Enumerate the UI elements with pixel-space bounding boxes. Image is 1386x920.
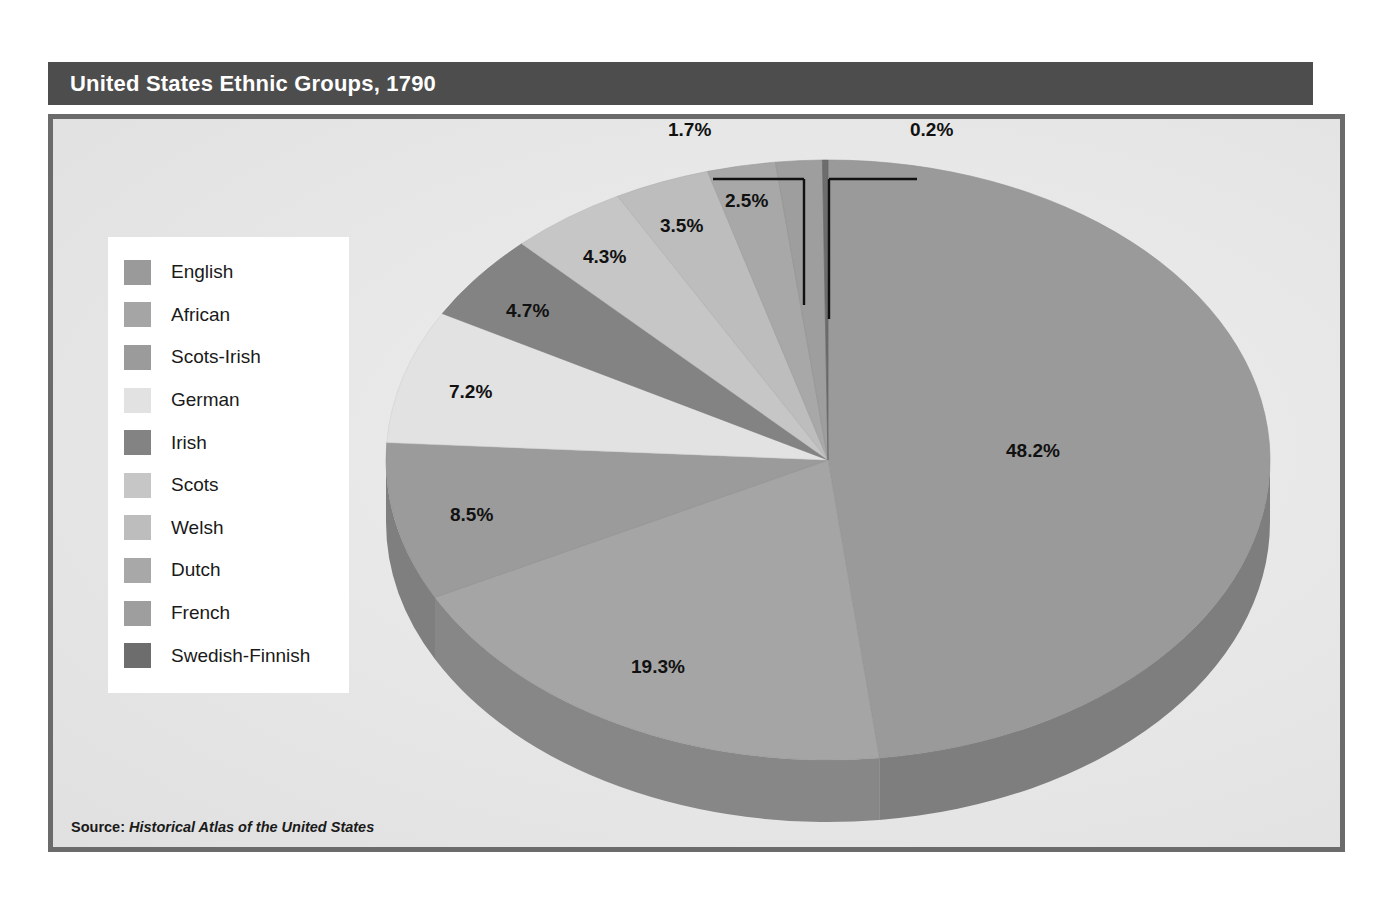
pct-label-scots: 4.3% [583, 246, 626, 268]
ethnic-groups-figure: United States Ethnic Groups, 1790 E [0, 0, 1386, 920]
pct-label-french: 1.7% [668, 119, 711, 141]
legend-item-german: German [108, 379, 349, 422]
legend-item-welsh: Welsh [108, 507, 349, 550]
pie-depth-african [435, 597, 879, 822]
pct-label-african: 19.3% [631, 656, 685, 678]
pct-label-dutch: 2.5% [725, 190, 768, 212]
pie-slice-african[interactable] [435, 460, 879, 760]
pct-label-welsh: 3.5% [660, 215, 703, 237]
legend-swatch-icon [124, 260, 151, 285]
pct-label-scots-irish: 8.5% [450, 504, 493, 526]
legend-item-irish: Irish [108, 421, 349, 464]
legend-item-label: Scots [171, 474, 219, 496]
pie-depth-layer [386, 460, 1270, 822]
legend-item-label: African [171, 304, 230, 326]
pct-label-irish: 4.7% [506, 300, 549, 322]
legend-item-label: Swedish-Finnish [171, 645, 310, 667]
legend-item-label: French [171, 602, 230, 624]
chart-plot-area: EnglishAfricanScots-IrishGermanIrishScot… [53, 119, 1340, 847]
legend-swatch-icon [124, 302, 151, 327]
legend-item-label: Scots-Irish [171, 346, 261, 368]
legend-swatch-icon [124, 473, 151, 498]
pie-depth-english [879, 460, 1270, 820]
source-title: Historical Atlas of the United States [129, 819, 374, 835]
legend-swatch-icon [124, 345, 151, 370]
legend-item-scots: Scots [108, 464, 349, 507]
pie-depth-scots-irish [386, 460, 435, 659]
legend-item-scots-irish: Scots-Irish [108, 336, 349, 379]
pie-slice-irish[interactable] [442, 244, 828, 460]
legend-item-french: French [108, 592, 349, 635]
pct-label-english: 48.2% [1006, 440, 1060, 462]
legend-swatch-icon [124, 601, 151, 626]
pct-label-swedish-finnish: 0.2% [910, 119, 953, 141]
legend-item-english: English [108, 251, 349, 294]
source-prefix: Source: [71, 819, 125, 835]
legend-item-label: Welsh [171, 517, 223, 539]
legend-item-swedish-finnish: Swedish-Finnish [108, 634, 349, 677]
swedish-callout [829, 179, 917, 319]
page-title: United States Ethnic Groups, 1790 [48, 71, 436, 97]
legend-swatch-icon [124, 643, 151, 668]
legend-item-label: Irish [171, 432, 207, 454]
legend-item-label: German [171, 389, 240, 411]
pct-label-german: 7.2% [449, 381, 492, 403]
legend-swatch-icon [124, 558, 151, 583]
pie-slice-swedish-finnish[interactable] [822, 160, 828, 460]
legend-swatch-icon [124, 515, 151, 540]
legend: EnglishAfricanScots-IrishGermanIrishScot… [108, 237, 349, 693]
legend-item-label: Dutch [171, 559, 221, 581]
source-note: Source: Historical Atlas of the United S… [71, 819, 374, 835]
pie-slice-welsh[interactable] [618, 171, 828, 460]
pie-slice-french[interactable] [775, 160, 828, 460]
legend-item-african: African [108, 294, 349, 337]
legend-swatch-icon [124, 388, 151, 413]
chart-title-bar: United States Ethnic Groups, 1790 [48, 62, 1313, 105]
legend-swatch-icon [124, 430, 151, 455]
chart-panel: EnglishAfricanScots-IrishGermanIrishScot… [48, 114, 1345, 852]
legend-item-label: English [171, 261, 233, 283]
legend-item-dutch: Dutch [108, 549, 349, 592]
pie-top-layer [386, 160, 1270, 760]
